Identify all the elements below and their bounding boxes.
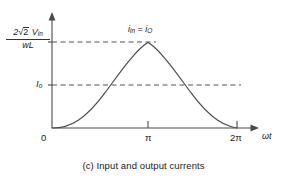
peak-current-label: iin = iO: [128, 25, 152, 35]
plot-canvas: [0, 0, 287, 150]
x-axis-arrowhead: [251, 125, 260, 132]
io-label-subscript: o: [39, 82, 43, 89]
plot-area: 2√2 Vin wL Io iin = iO 0 π 2π ωt: [0, 0, 287, 150]
x-axis-title: ωt: [262, 132, 272, 141]
x-tick-label-two-pi: 2π: [230, 133, 242, 143]
y-axis-arrowhead: [49, 12, 56, 21]
figure-caption: (c) Input and output currents: [0, 160, 287, 171]
y-axis-label-denominator: wL: [6, 40, 50, 50]
y-axis-value-label: 2√2 Vin wL: [6, 27, 50, 50]
radical-group: √2: [18, 27, 29, 37]
peak-label-equals: = i: [135, 24, 147, 34]
numerator-subscript: in: [38, 30, 43, 37]
figure-input-output-currents: 2√2 Vin wL Io iin = iO 0 π 2π ωt (c) Inp…: [0, 0, 287, 183]
peak-label-subscript-o: O: [147, 27, 152, 34]
average-current-level-label: Io: [36, 79, 42, 90]
y-axis-label-numerator: 2√2 Vin: [6, 27, 50, 40]
radical-radicand: 2: [23, 27, 29, 37]
x-tick-label-origin: 0: [41, 133, 46, 143]
x-tick-label-pi: π: [145, 133, 152, 143]
